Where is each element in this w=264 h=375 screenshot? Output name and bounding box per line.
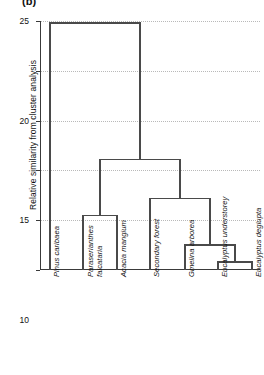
dendrogram-branch-vertical <box>184 245 185 270</box>
dendrogram-branch-vertical <box>139 23 140 159</box>
dendrogram-branch-vertical <box>149 198 150 270</box>
dendrogram-branch-vertical <box>179 159 180 198</box>
dendrogram-branch-vertical <box>209 198 210 245</box>
leaf-label: Secondary forest <box>153 219 162 277</box>
leaf-label: Acacia mangium <box>120 220 129 277</box>
dendrogram-branch-vertical <box>49 23 50 270</box>
dendrogram-branch-vertical <box>251 262 252 270</box>
leaf-label: Pinus caribaea <box>53 226 62 277</box>
leaf-label: Paraserianthesfalcataria <box>87 225 104 277</box>
leaf-label-line: Secondary forest <box>153 219 162 277</box>
y-tick-label: 10 <box>20 316 29 325</box>
dendrogram-merge-bar <box>49 22 140 23</box>
dendrogram-branch-vertical <box>116 215 117 270</box>
y-tick-label: 15 <box>20 216 29 225</box>
y-tick-label: 25 <box>20 17 29 26</box>
leaf-label: Gmelina arborea <box>188 220 197 277</box>
leaf-label-line: falcataria <box>96 225 105 277</box>
y-tick-label: 20 <box>20 116 29 125</box>
leaf-label: Eucalyptus deglupta <box>255 208 264 277</box>
y-tick: 0 <box>36 270 41 271</box>
y-axis-title: Relative similarity from cluster analysi… <box>28 40 38 230</box>
leaf-label-line: Pinus caribaea <box>53 226 62 277</box>
leaf-label-line: Eucalyptus understorey <box>221 197 230 277</box>
dendrogram-figure: (b) Relative similarity from cluster ana… <box>0 0 264 375</box>
leaf-label: Eucalyptus understorey <box>221 197 230 277</box>
panel-label: (b) <box>22 0 36 7</box>
dendrogram-branch-vertical <box>99 159 100 215</box>
dendrogram-branch-vertical <box>217 262 218 270</box>
leaf-label-line: Gmelina arborea <box>188 220 197 277</box>
dendrogram-branch-vertical <box>82 215 83 270</box>
leaf-label-line: Eucalyptus deglupta <box>255 208 264 277</box>
dendrogram-branch-vertical <box>234 245 235 262</box>
leaf-label-line: Acacia mangium <box>120 220 129 277</box>
